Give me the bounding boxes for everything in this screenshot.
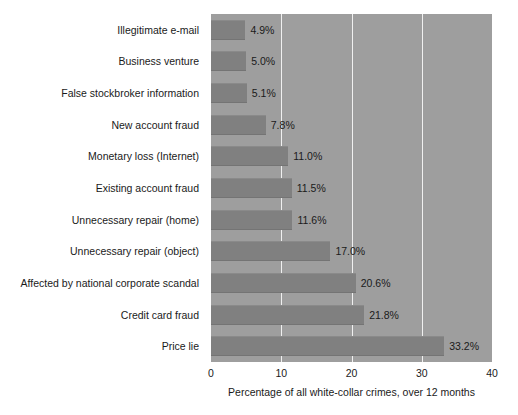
bar [211,83,247,103]
value-label: 4.9% [250,24,274,36]
bar [211,51,246,71]
value-label: 5.0% [251,55,275,67]
category-label: Price lie [0,340,205,352]
value-label: 5.1% [252,87,276,99]
x-tick-label: 10 [266,367,296,379]
category-label: False stockbroker information [0,87,205,99]
value-label: 11.6% [297,214,326,226]
x-tick-label: 40 [477,367,507,379]
bar-chart: Illegitimate e-mail4.9%Business venture5… [0,0,518,415]
value-label: 17.0% [335,245,365,257]
category-label: Illegitimate e-mail [0,24,205,36]
bar [211,273,356,293]
bar [211,336,444,356]
value-label: 33.2% [449,340,479,352]
category-label: Affected by national corporate scandal [0,277,205,289]
bar [211,146,288,166]
value-label: 7.8% [271,119,295,131]
category-label: Business venture [0,55,205,67]
x-tick-label: 0 [196,367,226,379]
category-label: New account fraud [0,119,205,131]
x-axis-title: Percentage of all white-collar crimes, o… [211,386,492,398]
value-label: 21.8% [369,309,399,321]
bar [211,115,266,135]
bar [211,305,364,325]
value-label: 11.0% [293,150,322,162]
x-tick-label: 20 [337,367,367,379]
value-label: 11.5% [297,182,326,194]
category-label: Existing account fraud [0,182,205,194]
bar [211,210,292,230]
category-label: Unnecessary repair (object) [0,245,205,257]
gridline-30 [422,14,423,362]
category-label: Unnecessary repair (home) [0,214,205,226]
x-tick-label: 30 [407,367,437,379]
bar [211,241,330,261]
bar [211,20,245,40]
bar [211,178,292,198]
value-label: 20.6% [361,277,391,289]
category-label: Monetary loss (Internet) [0,150,205,162]
category-label: Credit card fraud [0,309,205,321]
